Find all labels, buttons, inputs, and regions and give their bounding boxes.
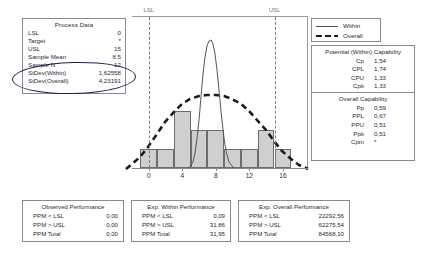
exp-overall-row-ppm-lt-lsl: PPM < LSL 22292,56 (239, 211, 349, 220)
legend-label: Within (343, 21, 360, 31)
row-value: 4,23191 (87, 77, 121, 85)
capability-row-cp: Cp 1,54 (312, 57, 414, 66)
row-value: 0,59 (374, 104, 386, 113)
usl-label: USL (269, 7, 281, 13)
observed-row-ppm-total: PPM Total 0,00 (23, 229, 123, 238)
row-value: 0,67 (374, 112, 386, 121)
process-data-title: Process Data (23, 19, 125, 29)
capability-row-ppu: PPU 0,51 (312, 121, 414, 130)
exp-overall-row-ppm-gt-usl: PPM > USL 62275,54 (239, 220, 349, 229)
row-label: PPU (312, 121, 374, 130)
row-label: CPU (312, 74, 374, 83)
process-data-row-usl: USL 15 (23, 45, 125, 53)
x-tick-label: 12 (246, 172, 253, 179)
row-value: 0,51 (374, 121, 386, 130)
row-label: PPM < LSL (249, 211, 280, 220)
row-value: 1,33 (374, 82, 386, 91)
plot-area: LSL USL (132, 17, 307, 168)
capability-row-ppk: Ppk 0,51 (312, 130, 414, 139)
exp-overall-performance-title: Exp. Overall Performance (239, 201, 349, 211)
row-value: 15 (87, 45, 121, 53)
process-data-row-sample-mean: Sample Mean 8,5 (23, 53, 125, 61)
within-curve (187, 40, 235, 169)
dashed-line-icon (316, 33, 338, 40)
row-label: CPL (312, 65, 374, 74)
x-tick (249, 168, 250, 171)
row-label: StDev(Within) (28, 69, 66, 77)
row-label: Ppk (312, 130, 374, 139)
capability-row-cpl: CPL 1,74 (312, 65, 414, 74)
row-label: PPM < LSL (142, 211, 173, 220)
observed-performance-panel: Observed Performance PPM < LSL 0,00 PPM … (22, 200, 124, 242)
row-value: * (374, 138, 376, 147)
usl-line (275, 17, 276, 168)
observed-row-ppm-lt-lsl: PPM < LSL 0,00 (23, 211, 123, 220)
capability-histogram-chart: LSL USL (132, 16, 308, 168)
capability-row-cpm: Cpm * (312, 138, 414, 147)
solid-line-icon (316, 23, 338, 30)
process-data-panel: Process Data LSL 0 Target * USL 15 Sampl… (22, 18, 126, 94)
legend-item-within: Within (312, 21, 380, 31)
exp-within-performance-title: Exp. Within Performance (132, 201, 230, 211)
exp-within-performance-panel: Exp. Within Performance PPM < LSL 0,09 P… (131, 200, 231, 242)
legend-label: Overall (343, 31, 363, 41)
x-tick-label: 4 (180, 172, 184, 179)
row-value: 1,74 (374, 65, 386, 74)
row-value: 84568,10 (310, 229, 344, 238)
x-tick (216, 168, 217, 171)
row-label: Sample Mean (28, 53, 66, 61)
x-tick-label: 8 (214, 172, 218, 179)
row-label: StDev(Overall) (28, 77, 69, 85)
row-label: PPM > USL (142, 220, 174, 229)
row-value: 0,09 (191, 211, 225, 220)
observed-performance-title: Observed Performance (23, 201, 123, 211)
row-value: 0,51 (374, 130, 386, 139)
x-tick-label: 0 (147, 172, 151, 179)
process-data-row-stdev-overall: StDev(Overall) 4,23191 (23, 77, 125, 85)
row-value: 22292,56 (310, 211, 344, 220)
capability-row-cpk: Cpk 1,33 (312, 82, 414, 91)
lsl-line (149, 17, 150, 168)
chart-legend: Within Overall (311, 18, 381, 42)
exp-overall-row-ppm-total: PPM Total 84568,10 (239, 229, 349, 238)
potential-within-capability-title: Potential (Within) Capability (312, 46, 414, 57)
x-tick-label: 16 (279, 172, 286, 179)
row-label: PPM < LSL (33, 211, 64, 220)
row-value: 8,5 (87, 53, 121, 61)
process-data-row-target: Target * (23, 37, 125, 45)
row-value: 1,54 (374, 57, 386, 66)
row-value: 1,33 (374, 74, 386, 83)
row-value: 1,62558 (87, 69, 121, 77)
process-data-row-lsl: LSL 0 (23, 29, 125, 37)
capability-row-ppl: PPL 0,67 (312, 112, 414, 121)
row-label: Cp (312, 57, 374, 66)
capability-row-cpu: CPU 1,33 (312, 74, 414, 83)
row-label: PPM Total (33, 229, 61, 238)
exp-within-row-ppm-total: PPM Total 31,95 (132, 229, 230, 238)
row-value: 0,00 (84, 229, 118, 238)
row-value: 0,00 (84, 220, 118, 229)
row-label: PPM Total (249, 229, 277, 238)
x-tick (149, 168, 150, 171)
row-label: LSL (28, 29, 39, 37)
x-axis: 0 4 8 12 16 (132, 168, 308, 169)
row-value: * (87, 37, 121, 45)
overall-curve (126, 95, 308, 169)
observed-row-ppm-gt-usl: PPM > USL 0,00 (23, 220, 123, 229)
distribution-curves (132, 17, 308, 169)
row-label: PPM Total (142, 229, 170, 238)
exp-overall-performance-panel: Exp. Overall Performance PPM < LSL 22292… (238, 200, 350, 242)
process-data-row-sample-n: Sample N 12 (23, 61, 125, 69)
row-label: Cpm (312, 138, 374, 147)
x-tick (182, 168, 183, 171)
process-data-row-stdev-within: StDev(Within) 1,62558 (23, 69, 125, 77)
row-label: Cpk (312, 82, 374, 91)
row-label: PPM > USL (249, 220, 281, 229)
capability-panel: Potential (Within) Capability Cp 1,54 CP… (311, 45, 415, 161)
x-tick (283, 168, 284, 171)
row-label: USL (28, 45, 40, 53)
lsl-label: LSL (143, 7, 154, 13)
row-label: PPL (312, 112, 374, 121)
row-label: Target (28, 37, 45, 45)
row-value: 31,86 (191, 220, 225, 229)
